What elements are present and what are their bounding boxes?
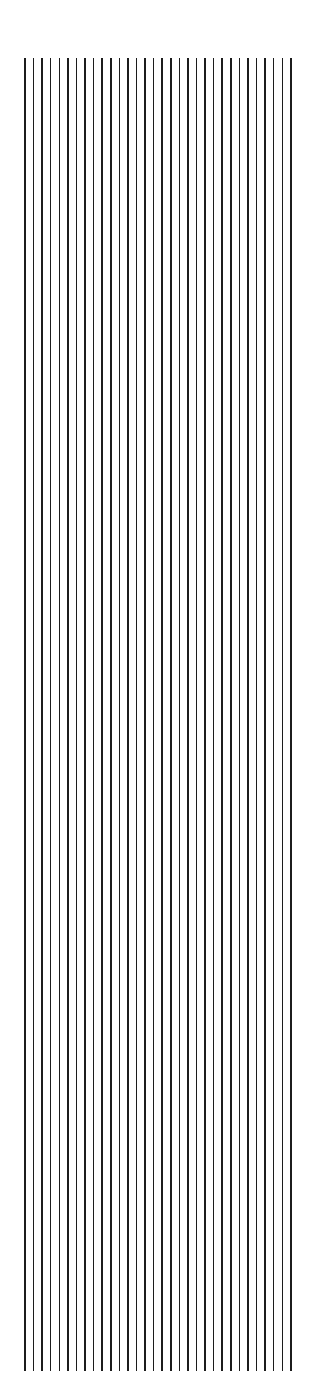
vertical-line: [161, 58, 163, 1371]
vertical-line-group: [0, 0, 316, 1386]
pattern-canvas: [0, 0, 316, 1386]
vertical-line: [59, 58, 61, 1371]
vertical-line: [119, 58, 121, 1371]
vertical-line: [247, 58, 249, 1371]
vertical-line: [282, 58, 284, 1371]
vertical-line: [153, 58, 155, 1371]
vertical-line: [67, 58, 69, 1371]
vertical-line: [179, 58, 181, 1371]
vertical-line: [110, 58, 112, 1371]
vertical-line: [41, 58, 43, 1371]
vertical-line: [136, 58, 138, 1371]
vertical-line: [93, 58, 95, 1371]
vertical-line: [239, 58, 241, 1371]
vertical-line: [196, 58, 198, 1371]
vertical-line: [230, 58, 232, 1371]
vertical-line: [50, 58, 52, 1371]
vertical-line: [264, 58, 266, 1371]
vertical-line: [187, 58, 189, 1371]
vertical-line: [204, 58, 206, 1371]
vertical-line: [101, 58, 103, 1371]
vertical-line: [127, 58, 129, 1371]
vertical-line: [256, 58, 258, 1371]
vertical-line: [213, 58, 215, 1371]
vertical-line: [33, 58, 35, 1371]
vertical-line: [24, 58, 26, 1371]
vertical-line: [290, 58, 292, 1371]
vertical-line: [76, 58, 78, 1371]
vertical-line: [84, 58, 86, 1371]
vertical-line: [221, 58, 223, 1371]
vertical-line: [273, 58, 275, 1371]
vertical-line: [170, 58, 172, 1371]
vertical-line: [144, 58, 146, 1371]
